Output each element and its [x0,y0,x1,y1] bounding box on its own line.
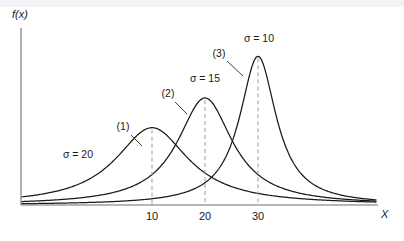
leader-line-3 [227,61,243,76]
density-curves-plot: 102030 σ = 20(1)σ = 15(2)σ = 10(3) f(x) … [0,0,404,241]
sigma-label-1: σ = 20 [63,148,93,160]
x-tick-labels-group: 102030 [146,210,264,222]
density-curve-1 [22,128,376,202]
curve-id-label-2: (2) [162,87,175,99]
x-tick-label-20: 20 [199,210,211,222]
x-tick-label-30: 30 [252,210,264,222]
sigma-label-2: σ = 15 [190,72,220,84]
curve-id-label-1: (1) [117,120,130,132]
y-axis-label: f(x) [12,8,28,20]
curve-id-label-3: (3) [213,47,226,59]
chart-figure: 102030 σ = 20(1)σ = 15(2)σ = 10(3) f(x) … [0,0,404,241]
leader-line-2 [175,102,187,114]
curve-annotations-group: σ = 20(1)σ = 15(2)σ = 10(3) [63,32,274,160]
sigma-label-3: σ = 10 [244,32,274,44]
x-axis-label: X [380,208,389,220]
x-tick-label-10: 10 [146,210,158,222]
